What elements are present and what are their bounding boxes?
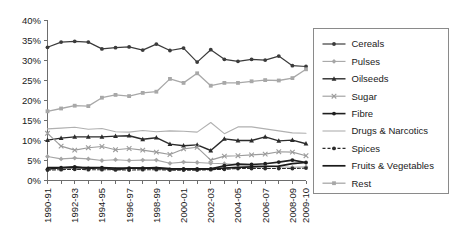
- data-point-marker: [73, 39, 77, 43]
- data-point-marker: [290, 158, 294, 162]
- data-point-marker: [127, 158, 132, 163]
- legend-label: Drugs & Narcotics: [352, 125, 429, 136]
- x-tick-label: 1996-97: [124, 188, 135, 223]
- data-point-marker: [72, 156, 77, 161]
- data-point-marker: [46, 109, 50, 113]
- legend-item-fruits-vegetables[interactable]: Fruits & Vegetables: [323, 160, 435, 171]
- data-point-marker: [290, 76, 294, 80]
- data-point-marker: [46, 45, 50, 49]
- data-point-marker: [182, 46, 186, 50]
- data-point-marker: [114, 93, 118, 97]
- series-line: [48, 69, 307, 111]
- data-point-marker: [304, 67, 308, 71]
- data-point-marker: [114, 46, 118, 50]
- data-point-marker: [332, 181, 336, 185]
- data-point-marker: [59, 107, 63, 111]
- legend-item-fibre[interactable]: Fibre: [323, 108, 374, 119]
- x-tick-label: 2008-09: [287, 188, 298, 223]
- series-line: [48, 123, 307, 134]
- legend-item-rest[interactable]: Rest: [323, 178, 372, 189]
- x-tick-label: 2002-03: [205, 188, 216, 223]
- chart-canvas: 0%5%10%15%20%25%30%35%40%1990-911992-931…: [0, 0, 456, 247]
- x-tick-label: 2000-01: [178, 188, 189, 223]
- x-tick-label: 1998-99: [151, 188, 162, 223]
- legend-label: Spices: [352, 143, 381, 154]
- data-point-marker: [250, 163, 254, 167]
- data-point-marker: [46, 168, 50, 172]
- data-point-marker: [86, 157, 91, 162]
- series-drugs-narcotics: [48, 123, 307, 134]
- y-tick-label: 15%: [22, 115, 42, 126]
- data-point-marker: [263, 134, 268, 139]
- legend-item-drugs-narcotics[interactable]: Drugs & Narcotics: [323, 125, 429, 136]
- y-tick-label: 5%: [27, 155, 41, 166]
- legend-item-oilseeds[interactable]: Oilseeds: [323, 73, 389, 84]
- data-point-marker: [277, 54, 281, 58]
- data-point-marker: [59, 157, 64, 162]
- x-tick-label: 2006-07: [260, 188, 271, 223]
- data-point-marker: [154, 42, 158, 46]
- legend-label: Sugar: [352, 91, 377, 102]
- data-point-marker: [168, 49, 172, 53]
- data-point-marker: [59, 40, 63, 44]
- data-point-marker: [113, 157, 118, 162]
- data-point-marker: [100, 158, 105, 163]
- data-point-marker: [209, 84, 213, 88]
- x-tick-label: 1990-91: [42, 188, 53, 223]
- data-point-marker: [222, 164, 226, 168]
- data-point-marker: [209, 48, 213, 52]
- data-point-marker: [277, 167, 281, 171]
- legend-label: Cereals: [352, 38, 385, 49]
- data-point-marker: [332, 42, 336, 46]
- data-point-marker: [290, 64, 294, 68]
- legend-item-spices[interactable]: Spices: [323, 143, 381, 154]
- data-point-marker: [277, 160, 281, 164]
- data-point-marker: [168, 77, 172, 81]
- series-oilseeds: [45, 133, 308, 152]
- data-point-marker: [263, 78, 267, 82]
- data-point-marker: [100, 47, 104, 51]
- data-point-marker: [290, 167, 294, 171]
- legend-item-pulses[interactable]: Pulses: [323, 56, 381, 67]
- data-point-marker: [236, 162, 240, 166]
- legend-item-cereals[interactable]: Cereals: [323, 38, 385, 49]
- data-point-marker: [250, 57, 254, 61]
- data-point-marker: [195, 60, 199, 64]
- line-chart: 0%5%10%15%20%25%30%35%40%1990-911992-931…: [0, 0, 456, 247]
- data-point-marker: [168, 161, 173, 166]
- legend-label: Oilseeds: [352, 73, 389, 84]
- data-point-marker: [222, 57, 226, 61]
- series-sugar: [45, 131, 308, 162]
- data-point-marker: [86, 40, 90, 44]
- legend-label: Pulses: [352, 56, 381, 67]
- y-tick-label: 40%: [22, 15, 42, 26]
- data-point-marker: [45, 154, 50, 159]
- data-point-marker: [181, 160, 186, 165]
- data-point-marker: [73, 104, 77, 108]
- y-tick-label: 35%: [22, 35, 42, 46]
- data-point-marker: [277, 79, 281, 83]
- legend-label: Fruits & Vegetables: [352, 160, 435, 171]
- data-point-marker: [332, 112, 336, 116]
- data-point-marker: [332, 147, 336, 151]
- data-point-marker: [304, 166, 308, 170]
- data-point-marker: [263, 162, 267, 166]
- x-tick-label: 1994-95: [96, 188, 107, 223]
- series-rest: [46, 67, 308, 113]
- data-point-marker: [195, 160, 200, 165]
- data-point-marker: [127, 94, 131, 98]
- data-point-marker: [236, 59, 240, 63]
- y-tick-label: 10%: [22, 135, 42, 146]
- y-tick-label: 0%: [27, 175, 41, 186]
- data-point-marker: [250, 79, 254, 83]
- data-point-marker: [154, 158, 159, 163]
- data-point-marker: [195, 71, 199, 75]
- data-point-marker: [86, 104, 90, 108]
- data-point-marker: [100, 96, 104, 100]
- data-point-marker: [141, 48, 145, 52]
- series-cereals: [46, 39, 308, 68]
- data-point-marker: [236, 81, 240, 85]
- legend-label: Rest: [352, 178, 372, 189]
- y-tick-label: 20%: [22, 95, 42, 106]
- legend-item-sugar[interactable]: Sugar: [323, 91, 377, 102]
